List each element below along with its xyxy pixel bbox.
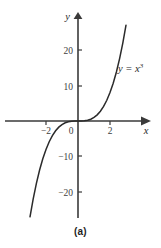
y-tick-label-20: 20	[64, 46, 74, 56]
y-tick-label-10: 10	[64, 82, 74, 92]
figure-caption: (a)	[0, 226, 161, 237]
x-axis-label: x	[143, 125, 149, 136]
curve-equation-exponent: 3	[139, 62, 144, 70]
figure-container: −2 0 2 20 10 −10 −20 y x y = x3 (a)	[0, 0, 161, 248]
y-tick-label--20: −20	[58, 188, 73, 198]
curve-equation-label: y = x3	[117, 62, 144, 74]
x-tick-label-2: 2	[108, 126, 113, 136]
curve-equation-base: y = x	[117, 63, 140, 74]
x-tick-label-0: 0	[69, 126, 74, 136]
y-tick-label--10: −10	[58, 152, 73, 162]
y-axis-label: y	[64, 11, 70, 22]
cubic-function-plot: −2 0 2 20 10 −10 −20 y x y = x3	[0, 0, 161, 248]
y-axis-arrow-icon	[74, 12, 83, 19]
x-tick-label--2: −2	[41, 126, 51, 136]
